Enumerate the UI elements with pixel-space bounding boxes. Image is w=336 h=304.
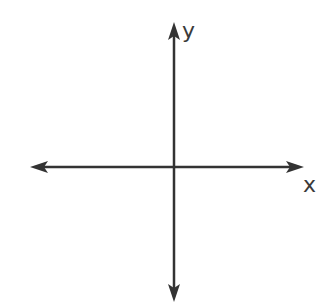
axes-graphic <box>0 0 336 304</box>
y-axis <box>168 22 180 302</box>
y-axis-label: y <box>182 20 195 42</box>
x-axis-label: x <box>303 174 316 196</box>
x-axis <box>30 161 304 173</box>
coordinate-plane: y x <box>0 0 336 304</box>
